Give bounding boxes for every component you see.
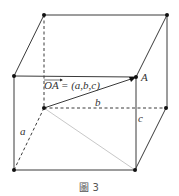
vertex [164,106,168,110]
hidden-edge-a [14,108,44,170]
point-A-label: A [140,71,148,83]
vertex [133,168,137,172]
edge-top-left [14,15,44,76]
edge-c-label: c [138,112,143,124]
vertex [12,74,16,78]
vertex [165,13,169,17]
edge-top-right [136,15,167,77]
vector-components-label: = (a,b,c) [61,79,100,92]
cuboid-diagram: OA = (a,b,c) A b c a 圖 3 [0,0,179,196]
vertex [12,168,16,172]
vertex-A [134,75,138,79]
edge-front-top [14,76,136,77]
vertex-O [42,106,46,110]
vector-name-label: OA [44,79,59,91]
edge-a-label: a [20,125,26,137]
figure-caption: 圖 3 [79,182,99,193]
base-diagonal [44,108,135,170]
edge-b-label: b [95,96,101,108]
vertex [42,13,46,17]
